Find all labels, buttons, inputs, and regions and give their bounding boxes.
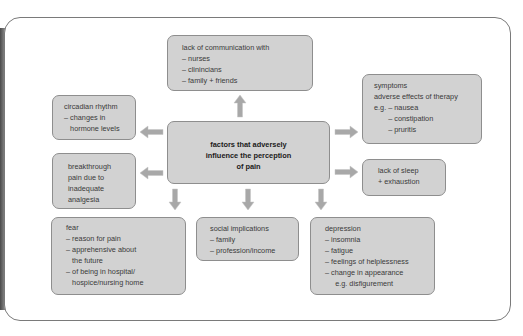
node-depression: depression – insomnia – fatigue – feelin… [310, 217, 435, 295]
node-communication: lack of communication with – nurses – cl… [167, 35, 313, 91]
node-line: hormone levels [64, 123, 135, 134]
node-line: – family + friends [182, 75, 312, 86]
node-symptoms: symptoms adverse effects of therapy e.g.… [362, 74, 482, 144]
node-line: – profession/income [210, 245, 298, 256]
node-line: pain due to [68, 172, 135, 183]
node-line: – nurses [182, 53, 312, 64]
node-line: the future [66, 255, 185, 266]
arrow-left-icon [139, 125, 164, 139]
node-line: fear [66, 222, 185, 233]
node-line: – apprehensive about [66, 244, 185, 255]
node-line: – of being in hospital/ [66, 266, 185, 277]
node-line: – feelings of helplessness [325, 256, 434, 267]
arrow-down-icon [314, 188, 328, 211]
node-line: breakthrough [68, 161, 135, 172]
node-line: – family [210, 234, 298, 245]
arrow-right-icon [334, 125, 359, 139]
node-line: – change in appearance [325, 267, 434, 278]
arrow-down-icon [168, 188, 182, 211]
center-line: influence the perception [168, 150, 329, 161]
node-line: circadian rhythm [64, 101, 135, 112]
node-line: + exhaustion [378, 176, 445, 187]
node-line: – pruritis [374, 124, 481, 135]
node-social: social implications – family – professio… [196, 217, 299, 261]
node-line: – reason for pain [66, 233, 185, 244]
node-line: hospice/nursing home [66, 277, 185, 288]
node-line: inadequate [68, 183, 135, 194]
node-line: e.g. disfigurement [325, 278, 434, 289]
node-line: social implications [210, 223, 298, 234]
arrow-up-icon [233, 94, 247, 118]
node-line: symptoms [374, 80, 481, 91]
arrow-left-icon [139, 166, 164, 180]
node-line: depression [325, 223, 434, 234]
node-line: – insomnia [325, 234, 434, 245]
center-line: factors that adversely [168, 139, 329, 150]
arrow-down-icon [241, 188, 255, 211]
node-line: – fatigue [325, 245, 434, 256]
center-line: of pain [168, 161, 329, 172]
node-breakthrough: breakthrough pain due to inadequate anal… [52, 153, 136, 209]
node-sleep: lack of sleep + exhaustion [362, 159, 446, 196]
node-circadian: circadian rhythm – changes in hormone le… [52, 95, 136, 140]
node-fear: fear – reason for pain – apprehensive ab… [51, 217, 186, 295]
node-line: e.g. – nausea [374, 102, 481, 113]
node-line: lack of communication with [182, 42, 312, 53]
node-line: – constipation [374, 113, 481, 124]
node-center: factors that adversely influence the per… [167, 121, 330, 184]
node-line: lack of sleep [378, 165, 445, 176]
node-line: analgesia [68, 194, 135, 205]
node-line: – clinincians [182, 64, 312, 75]
node-line: – changes in [64, 112, 135, 123]
node-line: adverse effects of therapy [374, 91, 481, 102]
arrow-right-icon [334, 165, 359, 179]
